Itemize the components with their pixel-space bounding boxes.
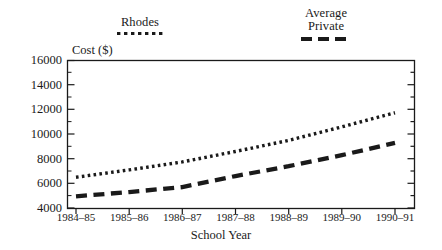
x-tick-label: 1984–85: [57, 211, 96, 223]
x-tick-label: 1986–87: [163, 211, 202, 223]
chart-figure: Rhodes Average Private Cost ($) 4000 600…: [0, 0, 442, 250]
x-tick-label: 1990–91: [376, 211, 415, 223]
x-tick-label: 1985–86: [110, 211, 149, 223]
x-axis-title: School Year: [0, 228, 442, 243]
x-tick-label: 1987–88: [216, 211, 255, 223]
plot-frame: [68, 61, 415, 209]
y-axis-major-ticks: [68, 61, 75, 209]
series-line-rhodes: [76, 113, 395, 178]
x-tick-label: 1989–90: [323, 211, 362, 223]
x-tick-label: 1988–89: [269, 211, 308, 223]
y-axis-right-ticks: [408, 72, 415, 208]
